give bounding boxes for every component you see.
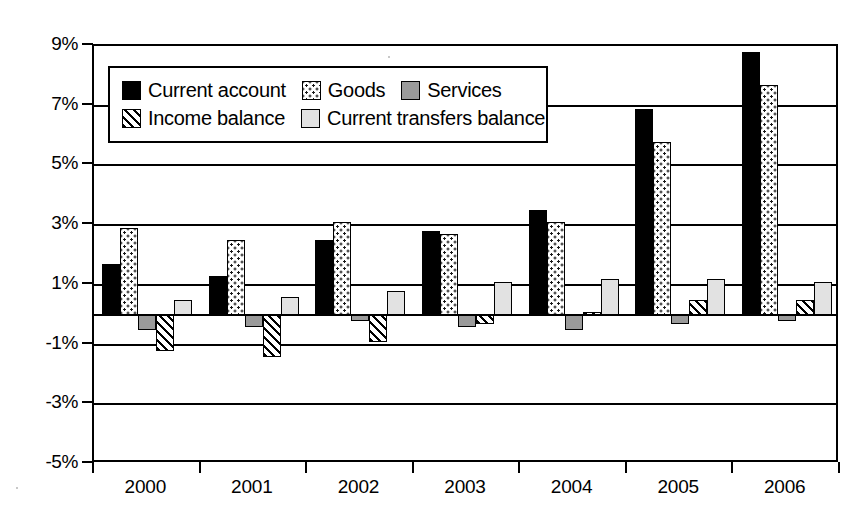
bar-goods-2002: [333, 222, 351, 315]
x-tick-mark: [731, 462, 733, 473]
legend-item-income-balance[interactable]: Income balance: [122, 107, 285, 129]
legend-label: Income balance: [148, 107, 285, 129]
bar-income-balance-2002: [369, 315, 387, 342]
y-tick-mark: [82, 401, 93, 403]
bar-services-2005: [671, 315, 689, 324]
y-tick-label: 1%: [8, 273, 78, 292]
y-tick-label: 7%: [8, 94, 78, 113]
bar-goods-2003: [440, 234, 458, 315]
scan-artifact: [16, 487, 18, 489]
bar-current-account-2005: [635, 109, 653, 315]
y-tick-label: -1%: [8, 333, 78, 352]
bar-goods-2001: [227, 240, 245, 315]
legend-swatch-icon: [401, 81, 420, 100]
y-tick-label: 9%: [8, 34, 78, 53]
legend-item-goods[interactable]: Goods: [302, 79, 385, 101]
bar-services-2000: [138, 315, 156, 330]
y-tick-mark: [82, 282, 93, 284]
legend-label: Goods: [328, 79, 385, 101]
bar-current-account-2003: [422, 231, 440, 315]
y-tick-label: 5%: [8, 153, 78, 172]
x-tick-mark: [92, 462, 94, 473]
legend-label: Current transfers balance: [327, 107, 545, 129]
legend-swatch-icon: [301, 109, 320, 128]
bar-current-transfers-balance-2005: [707, 279, 725, 315]
bar-goods-2006: [760, 85, 778, 315]
y-tick-mark: [82, 222, 93, 224]
zero-axis-line: [94, 314, 836, 316]
x-tick-label: 2006: [732, 477, 838, 497]
y-tick-mark: [82, 103, 93, 105]
x-tick-label: 2002: [305, 477, 411, 497]
scan-artifact: [388, 56, 390, 58]
bar-current-account-2002: [315, 240, 333, 315]
x-tick-label: 2000: [92, 477, 198, 497]
x-tick-mark: [305, 462, 307, 473]
y-tick-mark: [82, 342, 93, 344]
x-tick-mark: [199, 462, 201, 473]
bar-services-2004: [565, 315, 583, 330]
y-tick-label: -3%: [8, 392, 78, 411]
bar-goods-2000: [120, 228, 138, 315]
legend-label: Current account: [148, 79, 286, 101]
x-tick-mark: [518, 462, 520, 473]
bar-income-balance-2000: [156, 315, 174, 351]
legend-swatch-icon: [302, 81, 321, 100]
bar-current-transfers-balance-2002: [387, 291, 405, 315]
bar-current-account-2004: [529, 210, 547, 315]
x-tick-label: 2004: [519, 477, 625, 497]
x-tick-mark: [625, 462, 627, 473]
x-tick-label: 2001: [199, 477, 305, 497]
x-tick-mark: [838, 462, 840, 473]
bar-current-account-2000: [102, 264, 120, 315]
bar-income-balance-2005: [689, 300, 707, 315]
bar-goods-2004: [547, 222, 565, 315]
y-tick-mark: [82, 43, 93, 45]
bar-current-transfers-balance-2000: [174, 300, 192, 315]
bar-services-2003: [458, 315, 476, 327]
bar-income-balance-2001: [263, 315, 281, 357]
legend-item-services[interactable]: Services: [401, 79, 501, 101]
x-tick-label: 2005: [625, 477, 731, 497]
bar-current-transfers-balance-2006: [814, 282, 832, 315]
bar-services-2001: [245, 315, 263, 327]
legend-swatch-icon: [122, 109, 141, 128]
bar-current-account-2001: [209, 276, 227, 315]
chart-container: 9%7%5%3%1%-1%-3%-5% 20002001200220032004…: [0, 0, 858, 524]
legend-item-current-account[interactable]: Current account: [122, 79, 286, 101]
bar-current-transfers-balance-2001: [281, 297, 299, 315]
legend-row-bottom: Income balanceCurrent transfers balance: [122, 104, 536, 132]
bar-income-balance-2006: [796, 300, 814, 315]
x-tick-label: 2003: [412, 477, 518, 497]
bar-current-transfers-balance-2003: [494, 282, 512, 315]
legend-label: Services: [427, 79, 501, 101]
bar-current-account-2006: [742, 52, 760, 315]
x-tick-mark: [412, 462, 414, 473]
legend-item-current-transfers-balance[interactable]: Current transfers balance: [301, 107, 545, 129]
y-tick-mark: [82, 162, 93, 164]
legend-row-top: Current accountGoodsServices: [122, 76, 536, 104]
bar-current-transfers-balance-2004: [601, 279, 619, 315]
bar-income-balance-2003: [476, 315, 494, 324]
y-tick-label: 3%: [8, 213, 78, 232]
bar-goods-2005: [653, 142, 671, 315]
legend-swatch-icon: [122, 81, 141, 100]
y-tick-label: -5%: [8, 452, 78, 471]
chart-legend: Current accountGoodsServices Income bala…: [108, 66, 548, 143]
